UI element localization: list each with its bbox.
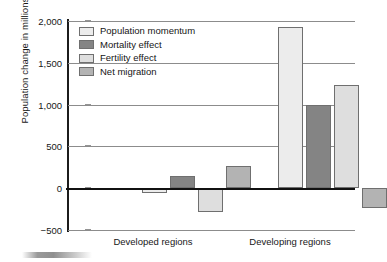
decorative-strip (22, 252, 92, 258)
y-tick-label: 1,000 (24, 99, 62, 110)
legend-item: Mortality effect (79, 40, 195, 50)
bar (278, 27, 303, 188)
chart-legend: Population momentumMortality effectFerti… (79, 26, 195, 77)
category-label-developed: Developed regions (113, 236, 192, 247)
legend-item: Fertility effect (79, 53, 195, 63)
legend-swatch (79, 67, 94, 76)
bar (362, 188, 387, 208)
legend-swatch (79, 54, 94, 63)
legend-item: Net migration (79, 67, 195, 77)
legend-label: Fertility effect (100, 53, 156, 63)
bar (226, 166, 251, 189)
legend-label: Population momentum (100, 26, 195, 36)
legend-swatch (79, 40, 94, 49)
y-tick-label: −500 (24, 225, 62, 236)
legend-swatch (79, 27, 94, 36)
gridline (68, 21, 355, 22)
legend-label: Net migration (100, 67, 157, 77)
legend-item: Population momentum (79, 26, 195, 36)
y-tick-label: 2,000 (24, 16, 62, 27)
gridline (68, 230, 355, 231)
y-tick-label: 1,500 (24, 57, 62, 68)
legend-label: Mortality effect (100, 40, 162, 50)
y-tick-label: 500 (24, 141, 62, 152)
category-label-developing: Developing regions (249, 236, 330, 247)
bar (198, 188, 223, 212)
bar (170, 176, 195, 188)
bar (334, 85, 359, 189)
y-axis-tick-labels: 2,0001,5001,0005000−500 (22, 0, 62, 262)
y-tick-label: 0 (24, 183, 62, 194)
zero-line (66, 188, 355, 190)
bar (306, 105, 331, 189)
